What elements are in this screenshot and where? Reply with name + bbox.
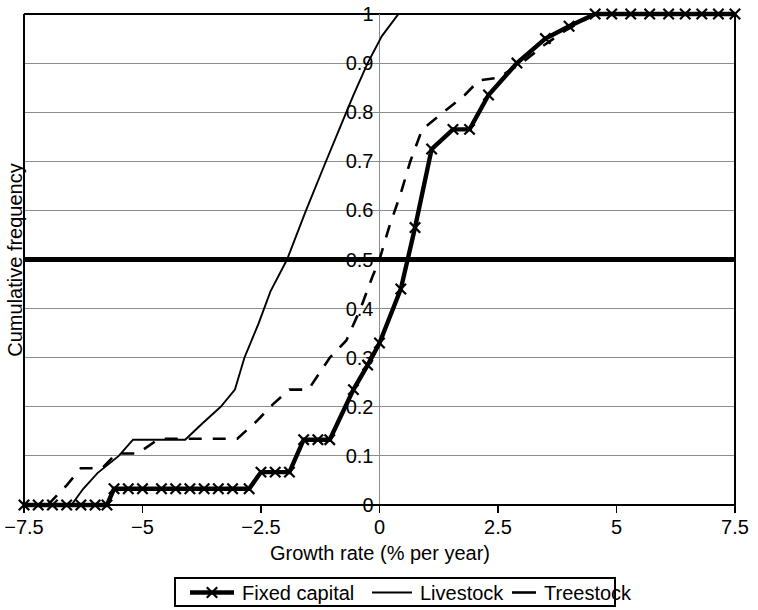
y-axis-tick-label: 0.3 bbox=[346, 347, 374, 369]
y-axis-tick-label: 0.8 bbox=[346, 101, 374, 123]
x-axis-tick-label: 2.5 bbox=[484, 516, 512, 538]
y-axis-tick-label: 0.4 bbox=[346, 298, 374, 320]
legend: Fixed capitalLivestockTreestock bbox=[175, 578, 632, 606]
x-axis-title: Growth rate (% per year) bbox=[270, 542, 490, 564]
y-axis-tick-label: 0.9 bbox=[346, 52, 374, 74]
x-axis-tick-label: 0 bbox=[374, 516, 385, 538]
y-axis-tick-label: 0.7 bbox=[346, 150, 374, 172]
x-axis-tick-label: −2.5 bbox=[241, 516, 280, 538]
figure-container: −7.5−5−2.502.557.5 00.10.20.30.40.50.60.… bbox=[0, 0, 758, 610]
x-axis-tick-label: −7.5 bbox=[4, 516, 43, 538]
y-axis-tick-label: 0.6 bbox=[346, 199, 374, 221]
legend-label: Fixed capital bbox=[242, 582, 354, 604]
legend-label: Livestock bbox=[420, 582, 504, 604]
y-axis-tick-label: 0.2 bbox=[346, 396, 374, 418]
y-axis-tick-label: 1 bbox=[362, 3, 373, 25]
y-axis-tick-label: 0.1 bbox=[346, 445, 374, 467]
y-axis-tick-label: 0 bbox=[362, 494, 373, 516]
x-axis-tick-label: 5 bbox=[611, 516, 622, 538]
y-axis-title: Cumulative frequency bbox=[4, 163, 26, 356]
cumulative-frequency-chart: −7.5−5−2.502.557.5 00.10.20.30.40.50.60.… bbox=[0, 0, 758, 610]
x-axis-tick-label: 7.5 bbox=[721, 516, 749, 538]
legend-label: Treestock bbox=[544, 582, 632, 604]
x-axis-tick-label: −5 bbox=[131, 516, 154, 538]
y-axis-tick-label: 0.5 bbox=[346, 249, 374, 271]
